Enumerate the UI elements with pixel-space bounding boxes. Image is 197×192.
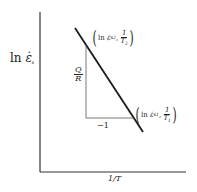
y-axis-label: ln ε̇s [10,52,34,66]
x-axis-label: 1/T [108,175,121,183]
point-lower-label: ( ln ε̇s1, 1 T1 ) [134,106,178,124]
slope-rise-label: Q R [74,66,83,83]
point-upper-label: ( ln ε̇s2, 1 T2 ) [91,29,135,47]
arrhenius-diagram: ln ε̇s 1/T Q R −1 ( ln ε̇s2, 1 T2 ) ( ln… [0,0,197,192]
slope-run-label: −1 [97,122,109,130]
